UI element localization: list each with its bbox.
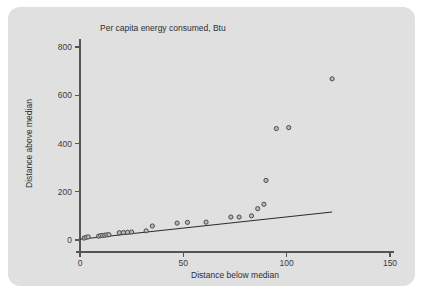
data-point	[121, 230, 125, 234]
y-tick-label-0: 0	[67, 235, 72, 245]
fit-line	[80, 212, 332, 239]
data-point	[175, 221, 179, 225]
data-point	[262, 202, 266, 206]
x-axis-title: Distance below median	[191, 270, 279, 280]
data-point	[330, 77, 334, 81]
data-point	[274, 126, 278, 130]
data-point	[229, 215, 233, 219]
y-tick-label-400: 400	[58, 139, 72, 149]
data-point	[107, 233, 111, 237]
data-point	[256, 207, 260, 211]
data-point	[249, 214, 253, 218]
data-point	[150, 224, 154, 228]
data-point	[86, 235, 90, 239]
x-tick-label-150: 150	[383, 258, 397, 268]
data-point	[185, 220, 189, 224]
data-point	[287, 125, 291, 129]
x-tick-label-100: 100	[280, 258, 294, 268]
x-tick-label-50: 50	[179, 258, 189, 268]
chart-title: Per capita energy consumed, Btu	[100, 23, 226, 33]
y-tick-label-600: 600	[58, 90, 72, 100]
data-point	[237, 215, 241, 219]
y-axis-title: Distance above median	[24, 99, 34, 188]
scatter-plot: 0200400600800050100150Per capita energy …	[0, 0, 423, 293]
data-point	[264, 178, 268, 182]
y-tick-label-200: 200	[58, 187, 72, 197]
data-point	[117, 231, 121, 235]
x-tick-label-0: 0	[78, 258, 83, 268]
data-point	[130, 230, 134, 234]
data-point	[204, 220, 208, 224]
data-point	[144, 229, 148, 233]
data-point	[125, 230, 129, 234]
y-tick-label-800: 800	[58, 42, 72, 52]
